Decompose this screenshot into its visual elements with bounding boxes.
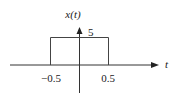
tick-label-neg-half: −0.5 — [41, 72, 61, 84]
pulse-diagram: x(t) 5 t −0.5 0.5 — [0, 0, 174, 99]
y-axis-label: x(t) — [64, 8, 81, 21]
x-axis-label: t — [165, 58, 169, 70]
amplitude-label: 5 — [88, 26, 94, 38]
amplitude-axis-arrow-icon — [77, 27, 83, 34]
tick-label-pos-half: 0.5 — [101, 72, 115, 84]
time-axis-arrow-icon — [151, 62, 159, 68]
